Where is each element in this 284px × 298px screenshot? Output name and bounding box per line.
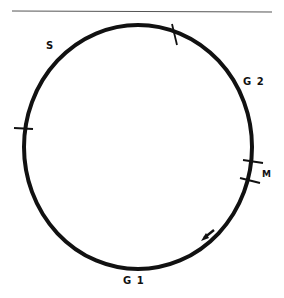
tick-g1-s: [14, 128, 33, 129]
label-s: S: [46, 40, 54, 51]
cell-cycle-diagram: [0, 0, 284, 298]
top-rule: [12, 11, 272, 12]
tick-s-g2: [172, 24, 177, 45]
label-g1: G 1: [123, 275, 145, 286]
label-m: M: [262, 169, 272, 179]
cycle-circle: [24, 25, 252, 269]
label-g2: G 2: [243, 76, 265, 87]
